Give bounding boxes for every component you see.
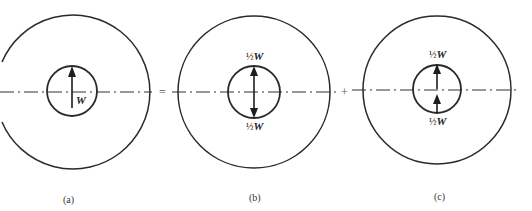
arrowhead-down-icon xyxy=(250,108,258,118)
caption-b: (b) xyxy=(249,192,261,204)
force-label-half-w-top: ½W xyxy=(429,48,448,60)
arrowhead-up-icon xyxy=(250,66,258,76)
load-decomposition-diagram: W = ½W ½W + ½W ½W xyxy=(0,0,532,211)
caption-a: (a) xyxy=(63,194,74,206)
caption-c: (c) xyxy=(434,191,445,203)
arrowhead-up-icon xyxy=(433,94,441,104)
plus-sign: + xyxy=(341,85,348,99)
force-label-half-w-top: ½W xyxy=(246,50,265,62)
force-label-half-w-bottom: ½W xyxy=(429,115,448,127)
arrowhead-up-icon xyxy=(68,66,76,77)
force-label-w: W xyxy=(76,94,87,106)
equals-sign: = xyxy=(159,85,166,99)
force-label-half-w-bottom: ½W xyxy=(246,120,265,132)
